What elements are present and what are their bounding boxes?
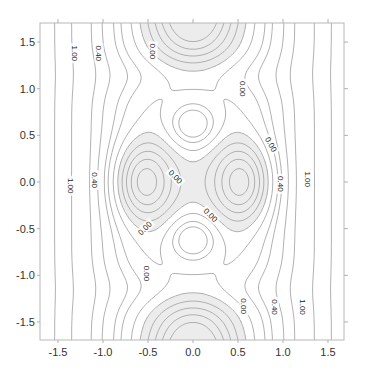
contour-label: 1.00 <box>70 43 79 63</box>
contour-label-text: 0.00 <box>239 298 248 314</box>
contour-label-text: 0.40 <box>90 172 99 188</box>
contour-label: 0.00 <box>148 41 157 61</box>
y-tick-label: -1.0 <box>16 269 35 281</box>
contour-label-text: 1.00 <box>66 178 75 194</box>
contour-label: 0.00 <box>142 263 151 283</box>
contour-label: 1.00 <box>298 297 307 317</box>
contour-label: 0.00 <box>239 296 248 316</box>
contour-label: 0.00 <box>238 79 247 99</box>
contour-label: 1.00 <box>66 176 75 196</box>
contour-label-text: 0.40 <box>270 299 279 315</box>
contour-label-text: 1.00 <box>298 299 307 315</box>
contour-label-text: 0.40 <box>94 45 103 61</box>
contour-label-text: 0.00 <box>148 44 157 60</box>
contour-label: 1.00 <box>303 169 312 189</box>
y-tick-label: 1.5 <box>20 36 35 48</box>
x-tick-label: 0.5 <box>230 346 245 358</box>
contour-label-text: 0.00 <box>238 81 247 97</box>
contour-label: 0.40 <box>270 297 279 317</box>
contour-label-text: 1.00 <box>70 45 79 61</box>
contour-chart: 1.000.400.000.000.000.000.401.001.000.40… <box>0 0 366 375</box>
x-tick-label: -1.0 <box>94 346 113 358</box>
y-tick-label: -0.5 <box>16 223 35 235</box>
contour-label-text: 0.00 <box>142 266 151 282</box>
y-tick-label: 1.0 <box>20 83 35 95</box>
y-tick-label: 0.0 <box>20 176 35 188</box>
negative-region <box>118 23 268 341</box>
contour-label: 0.40 <box>276 174 285 194</box>
contour-label: 0.40 <box>90 170 99 190</box>
x-tick-label: -0.5 <box>139 346 158 358</box>
y-tick-label: -1.5 <box>16 316 35 328</box>
contour-label: 0.40 <box>94 43 103 63</box>
contour-label-text: 0.40 <box>276 176 285 192</box>
x-tick-label: 1.0 <box>275 346 290 358</box>
contour-label-text: 1.00 <box>303 171 312 187</box>
y-tick-label: 0.5 <box>20 129 35 141</box>
x-tick-label: 1.5 <box>320 346 335 358</box>
negative-region-fill <box>118 23 268 341</box>
x-tick-label: -1.5 <box>49 346 68 358</box>
x-tick-label: 0.0 <box>185 346 200 358</box>
